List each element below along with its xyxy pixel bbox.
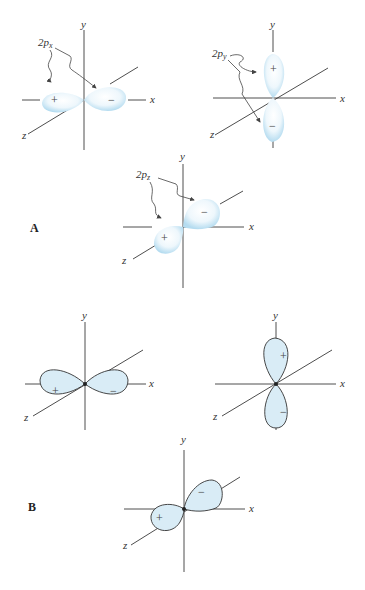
y-label: y <box>179 150 185 162</box>
lobe-minus <box>84 87 126 111</box>
z-label: z <box>212 410 218 422</box>
arrow-icon <box>228 60 260 122</box>
diagram-a-2py: + − x y z 2py <box>209 18 345 148</box>
orbital-label: 2px <box>38 36 53 50</box>
z-label: z <box>121 254 127 266</box>
minus-sign: − <box>110 384 117 398</box>
diagram-a-2pz: + − x y z 2pz <box>121 150 254 288</box>
lobe-plus <box>264 54 284 98</box>
minus-sign: − <box>280 405 287 419</box>
z-axis <box>131 477 240 545</box>
y-label: y <box>81 309 87 321</box>
y-label: y <box>269 18 275 30</box>
arrow-icon <box>55 48 96 88</box>
x-label: x <box>339 377 345 389</box>
y-label: y <box>180 433 186 445</box>
z-label: z <box>122 539 128 551</box>
panel-label-a: A <box>30 221 39 235</box>
minus-sign: − <box>201 205 208 219</box>
y-label: y <box>80 18 86 30</box>
z-label: z <box>23 411 29 423</box>
lobe-minus <box>85 370 128 394</box>
z-axis-back <box>220 191 243 204</box>
x-label: x <box>148 377 154 389</box>
plus-sign: + <box>52 384 59 398</box>
diagram-b-py: + − x y z <box>212 309 345 430</box>
minus-sign: − <box>198 485 205 499</box>
lobe-plus <box>42 93 84 113</box>
plus-sign: + <box>280 349 287 363</box>
z-label: z <box>209 128 215 140</box>
arrow-icon <box>48 50 51 82</box>
x-label: x <box>248 220 254 232</box>
arrow-icon <box>158 178 194 200</box>
orbital-label: 2pz <box>136 168 151 182</box>
diagram-b-px: + − x y z <box>23 309 154 430</box>
x-label: x <box>339 92 345 104</box>
arrow-icon <box>150 182 161 218</box>
plus-sign: + <box>156 511 163 525</box>
z-axis-front <box>133 245 156 259</box>
orbital-label: 2py <box>212 47 227 61</box>
plus-sign: + <box>161 231 168 245</box>
minus-sign: − <box>269 119 276 133</box>
y-label: y <box>272 309 278 321</box>
arrow-icon <box>230 55 256 72</box>
x-label: x <box>149 93 155 105</box>
plus-sign: + <box>270 62 277 76</box>
x-label: x <box>248 502 254 514</box>
plus-sign: + <box>51 93 58 107</box>
lobe-plus <box>40 370 85 394</box>
diagram-b-pz: + − x y z <box>122 433 254 572</box>
lobe-plus <box>154 226 183 254</box>
z-label: z <box>21 129 27 141</box>
orbital-diagram: + − x y z 2px + − x y z 2py + − x y <box>0 0 365 590</box>
z-axis-back <box>110 67 138 84</box>
panel-label-b: B <box>28 500 36 514</box>
diagram-a-2px: + − x y z 2px <box>21 18 155 150</box>
minus-sign: − <box>108 93 115 107</box>
